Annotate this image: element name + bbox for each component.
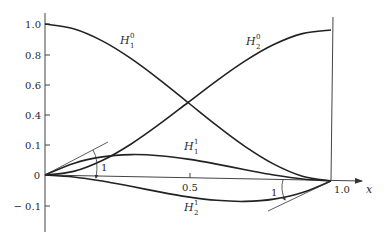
y-tick-label: 0.1 (25, 140, 41, 151)
svg-text:H: H (183, 140, 194, 153)
x-axis-label: x (366, 183, 373, 196)
curve-h2-0 (45, 30, 331, 175)
x-tick-label: 1.0 (334, 184, 350, 195)
y-tick-label: 0.6 (25, 80, 41, 91)
svg-text:1: 1 (194, 138, 198, 146)
y-tick-label: − 0.1 (14, 201, 41, 212)
svg-text:1: 1 (194, 199, 198, 207)
svg-text:1: 1 (130, 42, 134, 50)
y-tick-label: 0.4 (25, 110, 41, 121)
y-tick-label: 1.0 (25, 19, 41, 30)
y-tick-label: 0 (34, 170, 40, 181)
x-tick-label: 0.5 (182, 182, 198, 193)
svg-text:2: 2 (256, 43, 260, 51)
svg-text:1: 1 (194, 148, 198, 156)
svg-text:H: H (245, 35, 256, 48)
y-tick-label: 0.8 (25, 50, 41, 61)
x-equals-1-line (331, 17, 333, 181)
label-h2-1: H 2 1 (183, 199, 198, 217)
label-h1-1: H 1 1 (183, 138, 198, 156)
svg-text:2: 2 (194, 209, 198, 217)
slope-label-right: 1 (271, 187, 277, 198)
svg-text:0: 0 (130, 32, 134, 40)
svg-text:0: 0 (256, 33, 260, 41)
tangent-line-right (268, 181, 331, 211)
svg-text:H: H (119, 34, 130, 47)
y-ticks (45, 24, 50, 206)
svg-text:H: H (183, 201, 194, 214)
label-h1-0: H 1 0 (119, 32, 134, 50)
hermite-basis-chart: 1.0 0.8 0.6 0.4 0.1 0 − 0.1 0.5 1.0 x 1 … (0, 0, 390, 235)
label-h2-0: H 2 0 (245, 33, 260, 51)
slope-label-left: 1 (101, 162, 107, 173)
curve-h1-1 (45, 155, 331, 181)
